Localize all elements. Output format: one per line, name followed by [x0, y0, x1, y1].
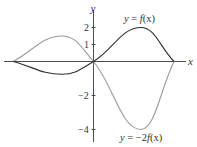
label-g-eq: = −2: [125, 132, 147, 143]
y-tick-label-minus-2: −2: [78, 90, 89, 101]
y-tick-label-minus-4: −4: [78, 124, 89, 135]
label-f-eq: =: [129, 13, 140, 24]
y-tick-label-2: 2: [84, 22, 89, 33]
function-graph: 2 1 −2 −4 y x y = f(x) y = −2f(x): [0, 0, 197, 147]
label-minus-2f: y = −2f(x): [119, 132, 163, 144]
x-axis-label: x: [187, 55, 193, 67]
label-f: y = f(x): [123, 13, 156, 25]
label-g-arg: (x): [150, 132, 163, 144]
label-f-arg: (x): [143, 13, 156, 25]
y-axis-label: y: [90, 2, 96, 14]
y-tick-label-1: 1: [84, 39, 89, 50]
